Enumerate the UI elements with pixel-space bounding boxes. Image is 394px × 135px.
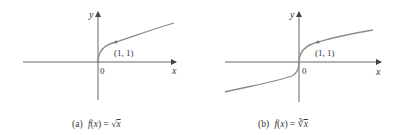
x-axis-label: x [375, 66, 381, 77]
x-axis-label: x [171, 65, 177, 76]
origin-label: 0 [100, 66, 105, 76]
caption-a: (a) f(x) = √x [72, 119, 121, 130]
y-axis-label: y [289, 9, 295, 20]
panel-b-cbrt: y x 0 (1, 1) (b) f(x) = ∛x [225, 9, 381, 130]
origin-label: 0 [302, 66, 307, 76]
point-marker [316, 40, 319, 43]
sqrt-curve [98, 23, 174, 62]
panel-a-sqrt: y x 0 (1, 1) (a) f(x) = √x [23, 9, 177, 130]
point-marker [114, 40, 117, 43]
figure: y x 0 (1, 1) (a) f(x) = √x y x 0 (1, 1) … [0, 0, 394, 135]
point-label: (1, 1) [315, 48, 335, 58]
point-label: (1, 1) [114, 48, 134, 58]
y-axis-label: y [88, 9, 94, 20]
caption-b: (b) f(x) = ∛x [258, 118, 309, 130]
